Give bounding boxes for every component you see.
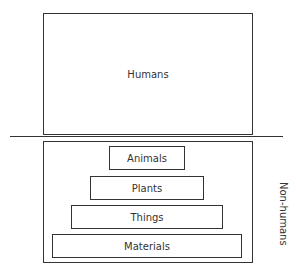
animals-label: Animals xyxy=(127,153,167,164)
things-box: Things xyxy=(71,205,223,229)
animals-box: Animals xyxy=(109,146,185,170)
plants-box: Plants xyxy=(90,176,204,200)
non-humans-label: Non-humans xyxy=(275,182,289,222)
humans-box: Humans xyxy=(43,13,253,135)
materials-box: Materials xyxy=(52,234,242,258)
things-label: Things xyxy=(130,212,163,223)
divider-line xyxy=(10,136,283,137)
humans-label: Humans xyxy=(127,69,168,80)
materials-label: Materials xyxy=(124,241,170,252)
diagram: Humans Animals Plants Things Materials N… xyxy=(0,0,297,274)
plants-label: Plants xyxy=(132,183,162,194)
